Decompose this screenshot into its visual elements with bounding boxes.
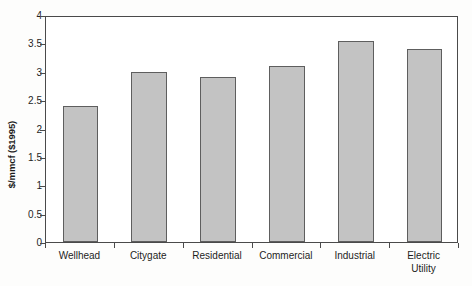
x-axis-tick-label: Industrial [320,250,389,263]
x-axis-tick-mark [183,243,184,248]
x-axis-tick-label: ElectricUtility [389,250,458,275]
x-axis-tick-label-line: Electric [407,250,440,261]
x-axis-tick-label-line: Citygate [130,250,167,261]
x-axis-tick-label: Commercial [252,250,321,263]
x-axis-tick-mark [114,243,115,248]
bar [407,49,443,242]
x-axis-tick-label: Wellhead [45,250,114,263]
x-axis-tick-labels: WellheadCitygateResidentialCommercialInd… [45,250,458,284]
x-axis-tick-mark [389,243,390,248]
x-axis-tick-label-line: Wellhead [59,250,101,261]
x-axis-tick-mark [320,243,321,248]
x-axis-tick-mark [45,243,46,248]
x-axis-tick-mark [252,243,253,248]
x-axis-tick-label-line: Utility [389,263,458,276]
x-axis-tick-label: Residential [183,250,252,263]
plot-area [45,16,458,243]
x-axis-tick-label-line: Commercial [259,250,312,261]
bar [200,77,236,242]
bar-chart: $/mmcf ($1995) 00.511.522.533.54 Wellhea… [0,0,472,286]
bar [131,72,167,242]
x-axis-tick-mark [458,243,459,248]
bars-layer [46,17,457,242]
bar [338,41,374,242]
x-axis-tick-label-line: Industrial [334,250,375,261]
x-axis-tick-label-line: Residential [192,250,241,261]
bar [269,66,305,242]
bar [63,106,99,242]
x-axis-tick-label: Citygate [114,250,183,263]
